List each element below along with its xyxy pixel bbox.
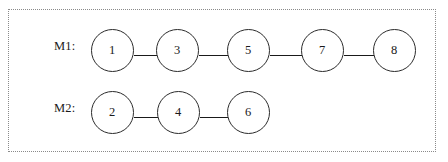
node-4-label: 4 <box>175 105 181 120</box>
node-6-label: 6 <box>245 105 251 120</box>
node-2-label: 2 <box>109 105 115 120</box>
node-6[interactable]: 6 <box>227 91 270 134</box>
machine-row-m1: M1: 1 3 5 7 8 <box>0 28 448 74</box>
node-4[interactable]: 4 <box>157 91 200 134</box>
row-label-m1: M1: <box>54 40 88 53</box>
row-label-m2: M2: <box>54 102 88 115</box>
node-5[interactable]: 5 <box>227 29 270 72</box>
node-1-label: 1 <box>109 43 115 58</box>
machine-row-m2: M2: 2 4 6 <box>0 90 448 136</box>
node-2[interactable]: 2 <box>91 91 134 134</box>
node-7[interactable]: 7 <box>301 29 344 72</box>
node-3[interactable]: 3 <box>156 29 199 72</box>
node-8[interactable]: 8 <box>373 29 416 72</box>
diagram-canvas: M1: 1 3 5 7 8 <box>0 0 448 162</box>
node-7-label: 7 <box>319 43 325 58</box>
node-3-label: 3 <box>174 43 180 58</box>
node-1[interactable]: 1 <box>91 29 134 72</box>
node-8-label: 8 <box>391 43 397 58</box>
node-5-label: 5 <box>245 43 251 58</box>
